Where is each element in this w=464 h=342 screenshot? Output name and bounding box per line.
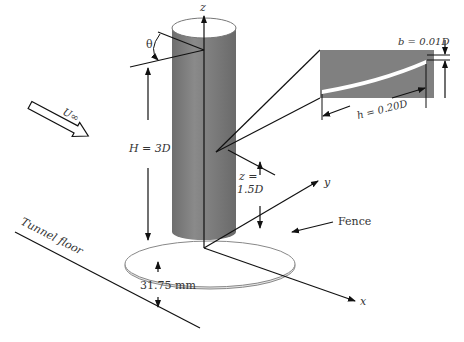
h-label: h = 0.20D — [356, 98, 409, 121]
theta-arc — [153, 34, 160, 60]
probe-height-label-2: 1.5D — [237, 183, 263, 196]
inset-detail: b = 0.01D h = 0.20D — [320, 36, 450, 121]
gap-label: 31.75 mm — [140, 279, 196, 292]
diagram-canvas: Tunnel floor z y x θ U∞ H = 3D z = 1.5D … — [0, 0, 464, 342]
cylinder-setup-diagram: Tunnel floor z y x θ U∞ H = 3D z = 1.5D … — [0, 0, 464, 342]
probe-height-label-1: z = — [238, 170, 258, 183]
freestream-arrow-icon — [26, 98, 92, 143]
theta-label: θ — [146, 38, 153, 51]
x-axis-label: x — [360, 295, 367, 308]
height-label: H = 3D — [128, 142, 171, 155]
fence-label: Fence — [338, 215, 371, 228]
h-arrow-left — [323, 106, 350, 116]
y-axis-label: y — [323, 176, 331, 189]
z-axis-label: z — [199, 1, 206, 14]
fence-pointer — [292, 222, 333, 232]
b-label: b = 0.01D — [398, 36, 449, 47]
